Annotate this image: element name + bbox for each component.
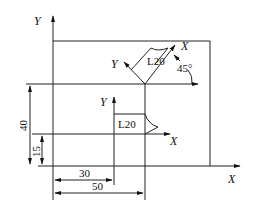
main-x-axis: X: [38, 166, 240, 186]
l20-tool-shape: [145, 114, 158, 134]
dimension-30-label: 30: [79, 167, 91, 179]
translated-y-label: Y: [100, 95, 108, 109]
diagram-canvas: Y X Y X L20 X Y L20 45° 40: [0, 0, 253, 213]
angle-arrow: [174, 55, 180, 61]
main-y-label: Y: [34, 14, 42, 28]
dimension-50: 50: [55, 180, 143, 193]
translated-l20-label: L20: [118, 118, 136, 130]
rotated-y-label: Y: [111, 57, 119, 71]
main-y-axis: Y: [34, 14, 53, 200]
main-x-label: X: [227, 172, 236, 186]
translated-coordinate-system: Y X L20: [53, 95, 178, 185]
workpiece-rectangle: [53, 41, 210, 166]
rotated-y-axis: [124, 62, 145, 84]
rotated-coordinate-system: X Y L20 45°: [111, 39, 192, 84]
dimension-30: 30: [55, 167, 112, 180]
dimension-15: 15: [30, 136, 42, 164]
dimension-40: 40: [17, 86, 30, 164]
dimension-15-label: 15: [30, 146, 42, 158]
dimension-50-label: 50: [92, 180, 104, 192]
rotated-l20-label: L20: [147, 55, 165, 67]
translated-x-label: X: [169, 134, 178, 148]
dimension-40-label: 40: [17, 120, 29, 132]
rotated-x-label: X: [180, 39, 189, 53]
angle-label: 45°: [177, 62, 192, 74]
